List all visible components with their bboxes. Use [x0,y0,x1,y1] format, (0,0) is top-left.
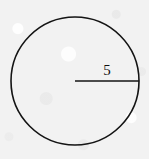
radius-length-label: 5 [103,62,111,78]
geometry-figure-canvas: 5 [0,0,149,159]
circle-diagram-svg: 5 [0,0,149,159]
